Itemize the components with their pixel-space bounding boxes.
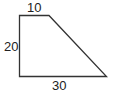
label-bottom: 30 (52, 78, 66, 93)
label-top: 10 (27, 0, 41, 15)
label-left: 20 (4, 39, 18, 54)
trapezoid-shape (20, 16, 107, 77)
trapezoid-diagram: 10 20 30 (0, 0, 119, 95)
